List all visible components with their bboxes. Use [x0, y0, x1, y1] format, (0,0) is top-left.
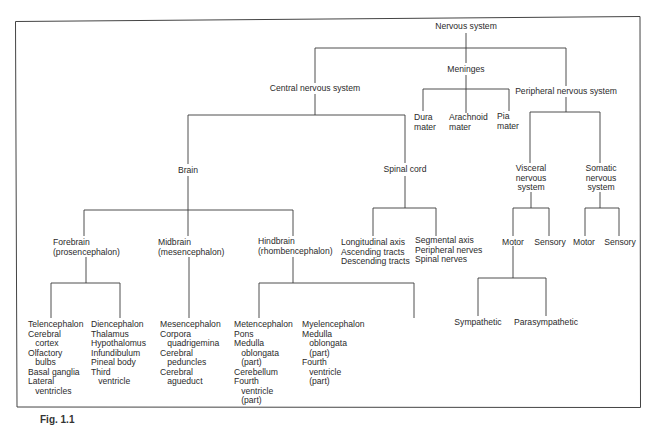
node-peripheral-nervous-system: Peripheral nervous system — [514, 87, 618, 97]
node-visceral-nervous-system: Visceral nervous system — [516, 164, 547, 193]
node-central-nervous-system: Central nervous system — [269, 84, 361, 94]
node-somatic-motor: Motor — [573, 238, 595, 248]
node-diencephalon: Diencephalon Thalamus Hypothalomus Infun… — [91, 320, 146, 387]
node-nervous-system: Nervous system — [435, 22, 497, 32]
node-meninges: Meninges — [446, 65, 485, 75]
node-sympathetic: Sympathetic — [454, 318, 501, 328]
node-mesencephalon: Mesencephalon Corpora quadrigemina Cereb… — [160, 320, 221, 387]
node-longitudinal-axis: Longitudinal axis Ascending tracts Desce… — [341, 238, 410, 267]
node-hindbrain: Hindbrain (rhombencephalon) — [258, 237, 333, 256]
node-somatic-sensory: Sensory — [604, 238, 636, 248]
node-midbrain: Midbrain (mesencephalon) — [158, 238, 224, 257]
node-spinal-cord: Spinal cord — [383, 165, 428, 175]
node-telencephalon: Telencephalon Cerebral cortex Olfactory … — [28, 320, 83, 396]
node-dura-mater: Dura mater — [414, 113, 436, 132]
node-parasympathetic: Parasympathetic — [514, 318, 578, 328]
figure-caption: Fig. 1.1 — [40, 414, 74, 425]
node-pia-mater: Pia mater — [497, 112, 519, 131]
node-brain: Brain — [177, 166, 199, 176]
node-visceral-sensory: Sensory — [534, 238, 566, 248]
node-metencephalon: Metencephalon Pons Medulla oblongata (pa… — [234, 320, 293, 406]
node-myelencephalon: Myelencephalon Medulla oblongata (part) … — [302, 320, 365, 387]
node-arachnoid-mater: Arachnoid mater — [449, 113, 488, 132]
node-forebrain: Forebrain (prosencephalon) — [53, 238, 120, 257]
node-somatic-nervous-system: Somatic nervous system — [585, 164, 616, 193]
node-visceral-motor: Motor — [502, 238, 524, 248]
node-segmental-axis: Segmental axis Peripheral nerves Spinal … — [415, 236, 482, 265]
